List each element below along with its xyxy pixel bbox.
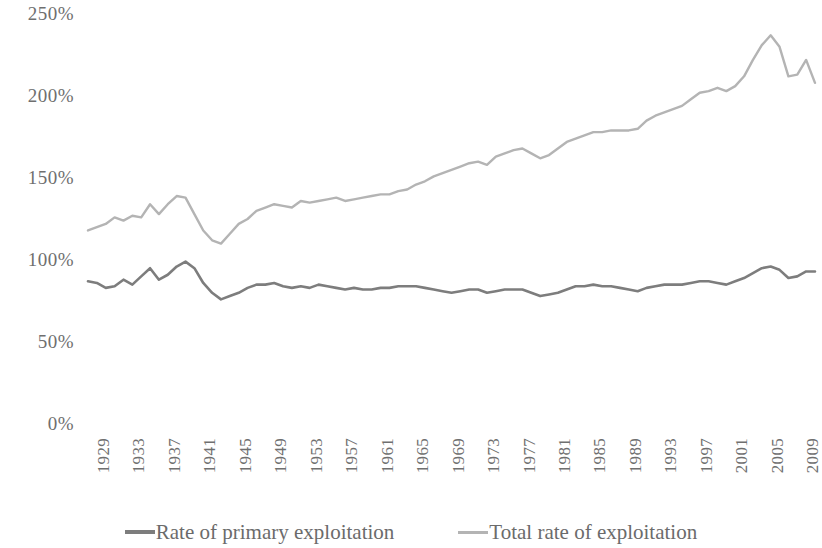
x-tick-label: 2009 (803, 438, 822, 473)
x-tick-label: 1933 (129, 438, 149, 473)
y-tick-label: 250% (28, 3, 74, 25)
legend-swatch-icon (458, 531, 488, 534)
x-tick-label: 1945 (236, 438, 256, 473)
x-tick-label: 1985 (590, 438, 610, 473)
series-line-2 (88, 35, 815, 243)
x-tick-label: 1957 (342, 438, 362, 473)
x-tick-label: 1977 (520, 438, 540, 473)
legend-swatch-icon (125, 530, 155, 534)
x-tick-label: 1941 (200, 438, 220, 473)
y-tick-label: 200% (28, 85, 74, 107)
x-tick-label: 1961 (378, 438, 398, 473)
x-tick-label: 1937 (165, 438, 185, 473)
x-tick-label: 1965 (413, 438, 433, 473)
y-tick-label: 150% (28, 167, 74, 189)
x-tick-label: 1953 (307, 438, 327, 473)
series-line-1 (88, 262, 815, 300)
x-tick-label: 1973 (484, 438, 504, 473)
y-tick-label: 50% (38, 331, 74, 353)
x-tick-label: 1989 (626, 438, 646, 473)
x-tick-label: 1981 (555, 438, 575, 473)
plot-area (86, 0, 822, 430)
legend-entry-2[interactable]: Total rate of exploitation (458, 522, 697, 543)
exploitation-rates-chart: 0%50%100%150%200%250% 192919331937194119… (0, 0, 822, 548)
chart-legend: Rate of primary exploitationTotal rate o… (0, 516, 822, 548)
legend-label: Rate of primary exploitation (156, 522, 395, 543)
y-tick-label: 0% (48, 413, 74, 435)
x-tick-label: 2005 (768, 438, 788, 473)
chart-canvas (86, 0, 822, 430)
y-tick-label: 100% (28, 249, 74, 271)
x-tick-label: 1969 (449, 438, 469, 473)
legend-entry-1[interactable]: Rate of primary exploitation (125, 522, 395, 543)
x-tick-label: 1949 (271, 438, 291, 473)
x-tick-label: 1929 (94, 438, 114, 473)
x-tick-label: 1997 (697, 438, 717, 473)
x-tick-label: 2001 (732, 438, 752, 473)
legend-label: Total rate of exploitation (489, 522, 697, 543)
y-axis: 0%50%100%150%200%250% (0, 0, 86, 440)
x-axis: 1929193319371941194519491953195719611965… (86, 430, 822, 515)
x-tick-label: 1993 (661, 438, 681, 473)
